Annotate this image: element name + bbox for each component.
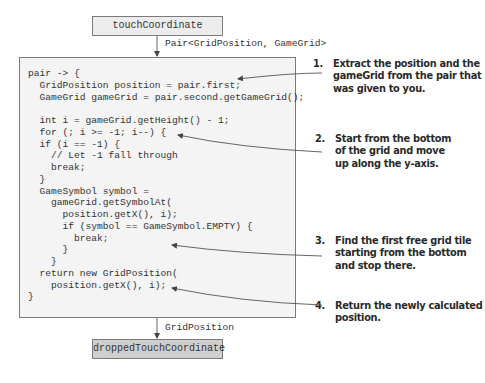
- leader-line-1: [238, 73, 322, 79]
- leader-line-4: [172, 288, 322, 305]
- leader-line-2: [178, 135, 322, 152]
- leader-line-3: [172, 245, 322, 256]
